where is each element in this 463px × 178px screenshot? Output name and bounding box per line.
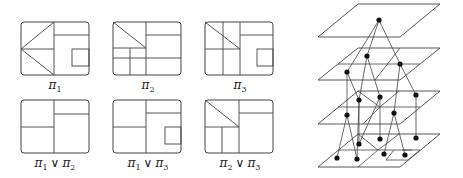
block-boundary: [113, 22, 146, 48]
block-boundary: [21, 49, 54, 75]
partition-pi2: [113, 22, 181, 75]
plane-division: [358, 150, 378, 167]
lattice-node: [391, 110, 396, 115]
lattice-node: [413, 135, 418, 140]
partition-label-pi2_join_pi3: π2∨π3: [220, 156, 261, 172]
pi-symbol: π: [220, 156, 228, 170]
partition-label-pi1_join_pi2: π1∨π2: [35, 156, 76, 172]
join-operator: ∨: [236, 156, 245, 170]
partition-pi3: [205, 22, 273, 75]
lattice-edges: [337, 20, 416, 159]
pi-index: 2: [228, 163, 233, 172]
partition-label-pi2: π2: [142, 78, 155, 94]
partition-pi2_join_pi3: [205, 100, 273, 153]
block-boundary: [205, 100, 239, 127]
lattice-node: [354, 156, 359, 161]
lattice-edge: [359, 56, 367, 100]
partition-pi1: [21, 22, 89, 75]
partition-pi1_join_pi3: [113, 100, 181, 153]
block-boundary: [165, 127, 181, 144]
lattice-node: [344, 69, 349, 74]
pi-symbol: π: [62, 156, 70, 170]
pi-symbol: π: [155, 156, 163, 170]
partition-label-pi1_join_pi3: π1∨π3: [128, 156, 169, 172]
partition-frame: [113, 100, 181, 153]
pi-index: 2: [149, 85, 154, 94]
pi-index: 1: [136, 163, 141, 172]
partition-label-pi3: π3: [234, 78, 247, 94]
partition-pi1_join_pi2: [21, 100, 89, 153]
lattice-edge: [379, 20, 400, 64]
pi-symbol: π: [49, 78, 57, 92]
pi-symbol: π: [234, 78, 242, 92]
lattice-node: [376, 17, 381, 22]
lattice-node: [397, 61, 402, 66]
partition-lattice-diagram: [0, 0, 463, 178]
partition-label-pi1: π1: [49, 78, 62, 94]
lattice-3d-stack: [318, 4, 440, 167]
pi-symbol: π: [128, 156, 136, 170]
join-operator: ∨: [144, 156, 153, 170]
pi-index: 3: [241, 85, 246, 94]
lattice-node: [377, 94, 382, 99]
lattice-node: [413, 92, 418, 97]
lattice-edge: [394, 64, 400, 113]
lattice-edge: [337, 115, 347, 158]
lattice-edge: [367, 20, 379, 56]
lattice-node: [381, 151, 386, 156]
plane-level-2: [318, 48, 440, 80]
plane-division: [408, 150, 420, 160]
pi-symbol: π: [35, 156, 43, 170]
pi-index: 2: [70, 163, 75, 172]
pi-symbol: π: [142, 78, 150, 92]
partition-frame: [21, 100, 89, 153]
block-boundary: [72, 49, 89, 66]
lattice-edge: [359, 97, 380, 144]
lattice-edge: [347, 115, 357, 159]
join-operator: ∨: [51, 156, 60, 170]
block-boundary: [205, 22, 240, 49]
lattice-node: [402, 152, 407, 157]
lattice-node: [356, 97, 361, 102]
lattice-edge: [347, 72, 359, 100]
partition-frame: [21, 22, 89, 75]
lattice-node: [344, 112, 349, 117]
lattice-node: [334, 155, 339, 160]
plane-division: [386, 150, 394, 160]
pi-symbol: π: [247, 156, 255, 170]
lattice-edge: [384, 113, 394, 154]
pi-index: 1: [43, 163, 48, 172]
block-boundary: [257, 49, 273, 66]
lattice-node: [356, 141, 361, 146]
pi-index: 3: [255, 163, 260, 172]
lattice-node: [377, 136, 382, 141]
pi-index: 1: [56, 85, 61, 94]
plane-division: [358, 134, 378, 150]
lattice-node: [364, 53, 369, 58]
block-boundary: [21, 22, 54, 49]
pi-index: 3: [163, 163, 168, 172]
